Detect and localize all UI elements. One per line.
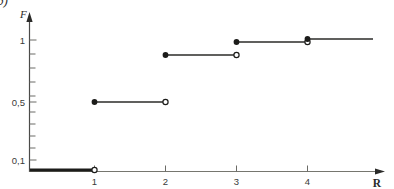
filled-marker-x3 [234, 39, 240, 45]
filled-marker-x1 [92, 99, 98, 105]
y-axis-label: F [19, 8, 27, 20]
open-marker-x2 [163, 99, 168, 104]
x-axis-arrow-icon [375, 168, 385, 174]
x-tick-label-1: 1 [92, 176, 97, 187]
x-tick-label-4: 4 [305, 176, 310, 187]
y-axis-ticks [30, 40, 37, 160]
open-marker-x3 [234, 52, 239, 57]
open-marker-x1 [92, 167, 97, 172]
y-tick-label-1: 1 [20, 35, 25, 46]
x-axis-ticks [95, 166, 308, 172]
y-tick-label-0p5: 0,5 [12, 97, 25, 108]
x-axis-label: R [373, 177, 382, 189]
axes-group [26, 12, 385, 175]
x-axis-tick-labels: 1 2 3 4 [92, 176, 310, 187]
y-tick-label-0p1: 0,1 [12, 155, 25, 166]
x-tick-label-2: 2 [163, 176, 168, 187]
filled-marker-x2 [163, 52, 169, 58]
x-tick-label-3: 3 [234, 176, 239, 187]
y-axis-arrow-icon [26, 12, 32, 22]
figure-panel: b) 1 0, [0, 0, 394, 189]
step-curve-group [30, 39, 373, 170]
filled-marker-x4 [305, 36, 311, 42]
cdf-step-plot: 1 0,5 0,1 F 1 2 3 4 R [0, 0, 394, 189]
y-axis-tick-labels: 1 0,5 0,1 [12, 35, 25, 166]
step-markers-group [92, 36, 311, 173]
